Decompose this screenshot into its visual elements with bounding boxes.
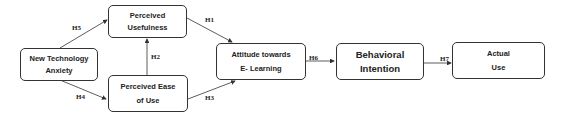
- edge-label-h3: H3: [205, 94, 214, 102]
- edge-label-h1: H1: [205, 16, 214, 24]
- node-label: Actual: [487, 49, 510, 58]
- node-actual-use: Actual Use: [452, 42, 545, 79]
- node-perceived-usefulness: Perceived Usefulness: [108, 5, 187, 38]
- node-label: Usefulness: [127, 23, 167, 32]
- arrow-h5: [60, 20, 107, 48]
- edge-label-h4: H4: [76, 93, 85, 101]
- edge-label-h5: H5: [72, 24, 81, 32]
- node-label: Behavioral: [356, 49, 405, 60]
- node-new-technology-anxiety: New Technology Anxiety: [20, 48, 98, 81]
- node-label: Perceived: [130, 11, 165, 20]
- node-label: Perceived Ease: [120, 82, 175, 91]
- edge-label-h7: H7: [440, 55, 449, 63]
- node-label: Attitude towards: [231, 50, 290, 59]
- node-label: Intention: [360, 63, 400, 74]
- node-behavioral-intention: Behavioral Intention: [336, 43, 424, 80]
- edge-label-h6: H6: [309, 54, 318, 62]
- node-label: New Technology: [29, 54, 88, 63]
- node-attitude-towards-e-learning: Attitude towards E- Learning: [216, 43, 306, 80]
- node-label: E- Learning: [240, 64, 281, 73]
- edge-label-h2: H2: [151, 53, 160, 61]
- node-label: Use: [492, 63, 506, 72]
- node-label: of Use: [137, 96, 160, 105]
- node-label: Anxiety: [45, 66, 72, 75]
- node-perceived-ease-of-use: Perceived Ease of Use: [108, 75, 188, 112]
